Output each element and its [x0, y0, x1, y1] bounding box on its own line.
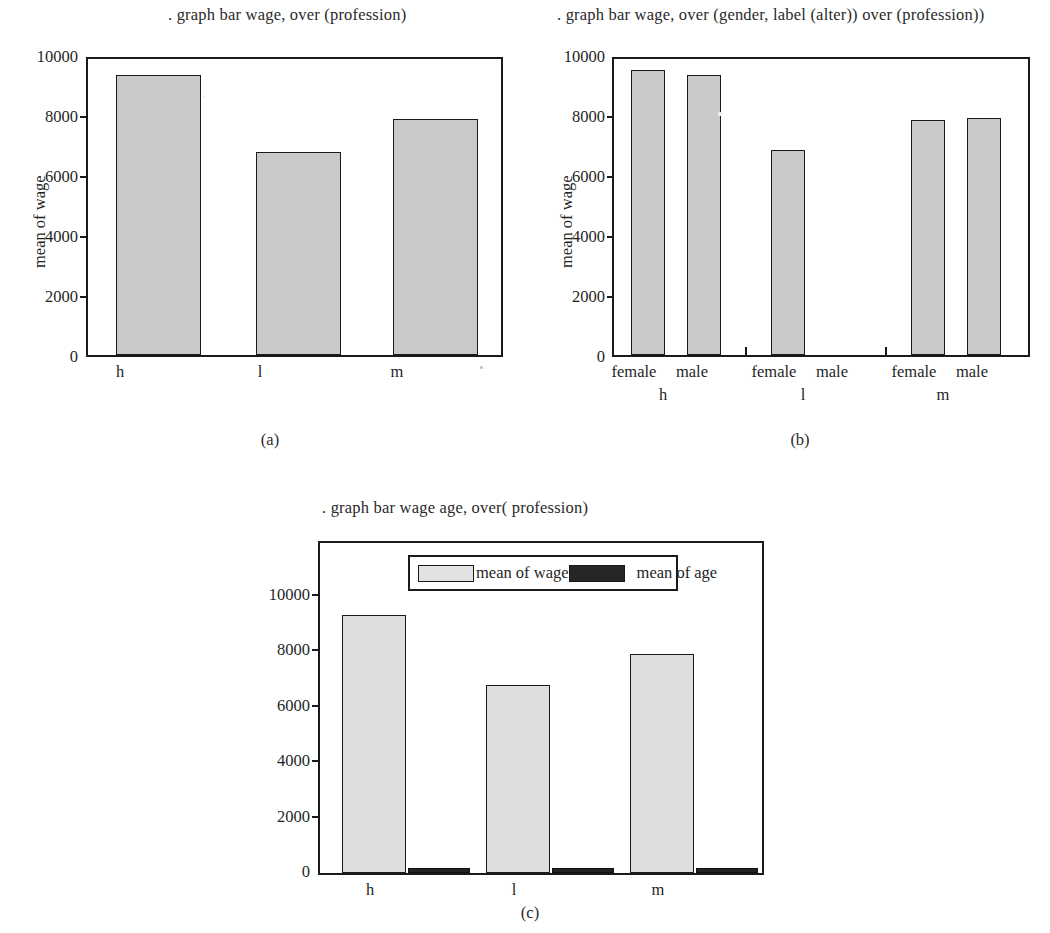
- panel-b-bars-layer: [614, 59, 1028, 355]
- legend-item-mean-of-wage[interactable]: mean of wage: [418, 563, 569, 583]
- panel-b-ytick-10000: 10000: [535, 47, 605, 67]
- bar-m-female: [911, 120, 945, 355]
- panel-a-ytick-2000: 2000: [8, 287, 78, 307]
- legend-label-mean-of-age: mean of age: [637, 563, 718, 583]
- panel-c-title: . graph bar wage age, over( profession): [322, 498, 588, 518]
- panel-a-ytick-8000: 8000: [8, 107, 78, 127]
- panel-a-y-axis-label: mean of wage: [30, 175, 50, 268]
- legend-label-mean-of-wage: mean of wage: [476, 563, 569, 583]
- panel-c-plot-area: mean of wage mean of age: [318, 541, 764, 875]
- panel-b-title: . graph bar wage, over (gender, label (a…: [557, 5, 984, 25]
- panel-c-bars-layer: [320, 543, 762, 873]
- panel-c-ytick-0: 0: [238, 862, 310, 882]
- panel-b-xtick-l-female: female: [739, 362, 809, 382]
- panel-c-caption: (c): [500, 903, 560, 923]
- panel-c-legend: mean of wage mean of age: [408, 555, 678, 591]
- panel-b-xtick-h-male: male: [661, 362, 723, 382]
- panel-c: . graph bar wage age, over( profession) …: [0, 490, 1050, 933]
- panel-b-group-h: h: [635, 385, 691, 405]
- bar-h-mean-of-wage: [342, 615, 406, 873]
- panel-c-ytick-10000: 10000: [238, 585, 310, 605]
- panel-c-ytick-6000: 6000: [238, 696, 310, 716]
- panel-b-y-axis-label: mean of wage: [557, 175, 577, 268]
- panel-b-group-m: m: [915, 385, 971, 405]
- panel-a-ytick-10000: 10000: [8, 47, 78, 67]
- panel-c-xtick-m: m: [628, 880, 688, 900]
- panel-b-caption: (b): [770, 430, 830, 450]
- panel-b-xtick-m-male: male: [941, 362, 1003, 382]
- panel-b-group-separator: [745, 347, 747, 355]
- panel-b-ytick-4000: 4000: [535, 227, 605, 247]
- bar-h-wage: [116, 75, 201, 355]
- panel-a: . graph bar wage, over (profession) mean…: [0, 0, 520, 470]
- bar-l-mean-of-wage: [486, 685, 550, 873]
- bar-l-wage: [256, 152, 341, 355]
- panel-c-ytick-8000: 8000: [238, 640, 310, 660]
- panel-b-plot-area: [612, 57, 1030, 357]
- bar-m-mean-of-age: [696, 868, 758, 873]
- panel-a-ytick-6000: 6000: [8, 167, 78, 187]
- panel-a-xtick-m: m: [367, 362, 427, 382]
- panel-a-xtick-h: h: [90, 362, 150, 382]
- panel-b-ytick-6000: 6000: [535, 167, 605, 187]
- panel-c-xtick-h: h: [340, 880, 400, 900]
- panel-b-group-l: l: [775, 385, 831, 405]
- panel-b-xtick-m-female: female: [879, 362, 949, 382]
- panel-a-ytick-4000: 4000: [8, 227, 78, 247]
- bar-h-mean-of-age: [408, 868, 470, 873]
- panel-b-xtick-h-female: female: [599, 362, 669, 382]
- panel-a-title: . graph bar wage, over (profession): [168, 5, 406, 25]
- bar-l-female: [771, 150, 805, 355]
- panel-a-ytick-0: 0: [8, 347, 78, 367]
- panel-c-ytick-4000: 4000: [238, 751, 310, 771]
- bar-m-male: [967, 118, 1001, 355]
- panel-a-bars-layer: [88, 59, 501, 355]
- panel-b-ytick-0: 0: [535, 347, 605, 367]
- panel-c-ytick-2000: 2000: [238, 807, 310, 827]
- panel-b-xtick-l-male: male: [801, 362, 863, 382]
- bar-h-male: [687, 75, 721, 355]
- panel-c-xtick-l: l: [484, 880, 544, 900]
- bar-l-mean-of-age: [552, 868, 614, 873]
- bar-m-mean-of-wage: [630, 654, 694, 873]
- panel-a-xtick-l: l: [230, 362, 290, 382]
- bar-h-female: [631, 70, 665, 355]
- panel-b: . graph bar wage, over (gender, label (a…: [525, 0, 1050, 470]
- legend-swatch-wage-icon: [418, 565, 474, 582]
- legend-swatch-age-icon: [569, 565, 625, 582]
- bar-m-wage: [393, 119, 478, 355]
- panel-a-caption: (a): [240, 430, 300, 450]
- legend-item-mean-of-age[interactable]: mean of age: [569, 563, 718, 583]
- panel-b-group-separator: [885, 347, 887, 355]
- panel-b-ytick-2000: 2000: [535, 287, 605, 307]
- panel-a-plot-area: [86, 57, 503, 357]
- panel-b-ytick-8000: 8000: [535, 107, 605, 127]
